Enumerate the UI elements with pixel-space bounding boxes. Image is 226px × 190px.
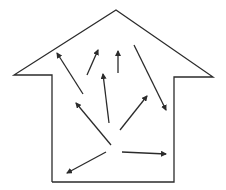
house-outline xyxy=(14,10,213,182)
arrow-7 xyxy=(76,103,111,145)
arrow-9 xyxy=(122,152,166,154)
arrow-4 xyxy=(134,45,166,110)
house-diagram xyxy=(0,0,226,190)
arrow-8 xyxy=(67,152,106,173)
arrow-2 xyxy=(87,50,98,75)
arrow-1 xyxy=(57,53,83,94)
arrow-5 xyxy=(103,74,109,123)
arrows-group xyxy=(57,45,166,173)
arrow-6 xyxy=(120,96,147,130)
